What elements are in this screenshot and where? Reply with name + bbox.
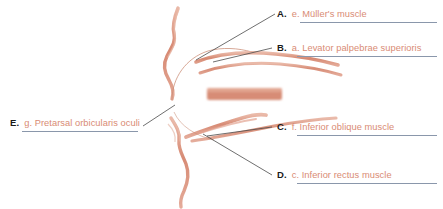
label-a[interactable]: A. e. Müller's muscle [277, 8, 367, 19]
label-c-name: f. Inferior oblique muscle [292, 122, 395, 132]
label-b[interactable]: B. a. Levator palpebrae superioris [277, 42, 421, 53]
label-c[interactable]: C. f. Inferior oblique muscle [277, 121, 394, 132]
label-a-name: e. Müller's muscle [292, 9, 367, 19]
label-a-rule [300, 22, 437, 23]
label-b-letter: B. [277, 42, 287, 53]
label-c-letter: C. [277, 121, 287, 132]
label-b-rule [297, 56, 437, 57]
label-a-letter: A. [277, 8, 287, 19]
label-d-rule [297, 183, 437, 184]
brow-contour-stroke [165, 8, 179, 99]
label-e-rule [22, 131, 138, 132]
muller-muscle-stroke [200, 63, 341, 75]
label-e-letter: E. [10, 117, 19, 128]
label-d-letter: D. [277, 169, 287, 180]
diagram-page: A. e. Müller's muscle B. a. Levator palp… [0, 0, 443, 209]
label-b-name: a. Levator palpebrae superioris [292, 43, 422, 53]
tarsal-band-stroke [207, 88, 282, 100]
label-c-rule [297, 135, 437, 136]
leader-line-d [203, 134, 272, 175]
label-e-name: g. Pretarsal orbicularis oculi [24, 118, 140, 128]
label-e[interactable]: E. g. Pretarsal orbicularis oculi [10, 117, 140, 128]
label-d[interactable]: D. c. Inferior rectus muscle [277, 169, 392, 180]
nasal-fold-accent [168, 124, 175, 142]
leader-line-e [143, 105, 175, 126]
label-d-name: c. Inferior rectus muscle [292, 170, 392, 180]
